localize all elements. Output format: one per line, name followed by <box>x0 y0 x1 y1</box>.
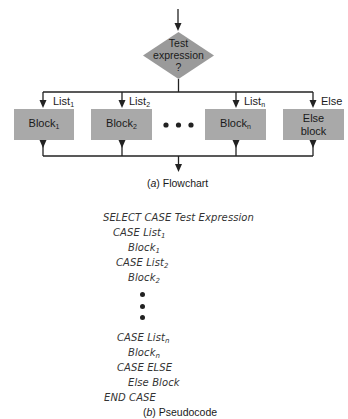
pseudocode-caption: (b) Pseudocode <box>143 406 217 418</box>
code-line-case-else: CASE ELSE <box>117 362 172 374</box>
code-line-block1: Block1 <box>128 242 160 257</box>
block-2: Block2 <box>91 109 152 140</box>
code-line-blockn: Blockn <box>128 347 160 362</box>
code-line-end-case: END CASE <box>104 392 156 404</box>
code-line-select: SELECT CASE Test Expression <box>103 212 254 224</box>
ellipsis-dot <box>176 122 181 127</box>
decision-line-3: ? <box>143 61 214 73</box>
code-line-case-list1: CASE List1 <box>113 227 166 242</box>
block-1: Block1 <box>14 109 74 140</box>
branch-label-else: Else <box>321 95 342 107</box>
code-line-case-listn: CASE Listn <box>117 332 170 347</box>
decision-label: Test expression ? <box>143 37 214 73</box>
code-line-else-block: Else Block <box>128 377 180 389</box>
code-line-case-list2: CASE List2 <box>116 257 169 272</box>
decision-line-2: expression <box>143 49 214 61</box>
flowchart-caption: (a) Flowchart <box>147 177 208 189</box>
vertical-ellipsis-dot <box>140 315 145 320</box>
block-n: Blockn <box>205 109 266 140</box>
decision-line-1: Test <box>143 37 214 49</box>
else-block: Elseblock <box>283 109 344 140</box>
ellipsis-dot <box>188 122 193 127</box>
ellipsis-dot <box>163 122 168 127</box>
code-line-block2: Block2 <box>128 272 160 287</box>
vertical-ellipsis-dot <box>140 304 145 309</box>
vertical-ellipsis-dot <box>140 292 145 297</box>
